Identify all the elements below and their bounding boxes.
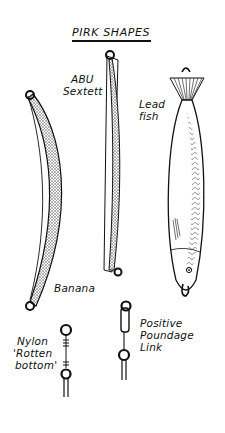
- abu-sextett-pirk: [104, 51, 122, 276]
- nylon-rotten-bottom-rig: [61, 325, 71, 397]
- label-link-line2: Poundage: [140, 330, 194, 341]
- link-clip-icon: [121, 308, 129, 332]
- label-link-line3: Link: [140, 342, 162, 353]
- label-lead-line2: fish: [139, 111, 159, 122]
- label-abu-line1: ABU: [71, 74, 94, 85]
- label-abu-line2: Sextett: [63, 86, 103, 97]
- label-nylon-line3: bottom': [15, 360, 57, 371]
- lead-fish-pirk: [168, 68, 204, 296]
- banana-pirk: [26, 91, 62, 310]
- label-banana: Banana: [54, 283, 95, 294]
- positive-poundage-link-rig: [119, 302, 131, 381]
- label-nylon-line1: Nylon: [17, 336, 48, 347]
- label-nylon-line2: 'Rotten: [13, 348, 52, 359]
- label-link-line1: Positive: [140, 318, 182, 329]
- label-lead-line1: Lead: [139, 99, 165, 110]
- abu-bottom-ring-icon: [115, 269, 122, 276]
- banana-bottom-ring-icon: [26, 302, 34, 310]
- swivel-eye-icon: [61, 325, 71, 335]
